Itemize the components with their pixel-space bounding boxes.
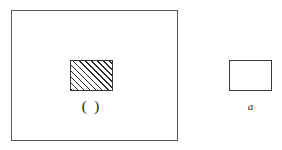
inner-hatched-rectangle <box>70 60 113 91</box>
outside-plain-rectangle <box>229 60 272 91</box>
figure-canvas: ( ) a <box>0 0 282 150</box>
outside-rectangle-label: a <box>229 101 272 112</box>
inner-rectangle-label: ( ) <box>70 99 113 114</box>
diagonal-hatch-pattern-icon <box>71 61 112 90</box>
